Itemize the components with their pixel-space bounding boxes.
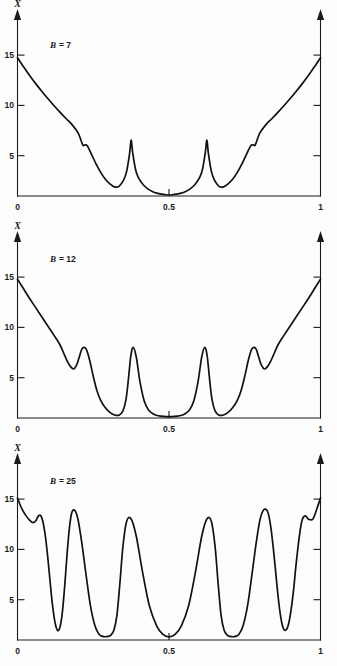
- x-tick-label-1: 1: [318, 202, 323, 212]
- series-annotation-value: = 25: [59, 476, 76, 486]
- y-tick-label-5: 5: [9, 151, 14, 161]
- series-annotation-value: = 7: [59, 40, 71, 50]
- panel-b-25: X 5 10 15 0 0.5 1 B = 25: [0, 444, 337, 666]
- panel-b-12: X 5 10 15 0 0.5 1 B = 12: [0, 222, 337, 444]
- curve-b-7: [18, 58, 321, 195]
- panel-b-12-svg: X 5 10 15 0 0.5 1 B = 12: [0, 222, 337, 444]
- y-tick-label-15: 15: [5, 272, 15, 282]
- curve-b-25: [18, 498, 321, 637]
- y-axis-right-arrow-icon: [317, 453, 324, 464]
- x-tick-label-0: 0: [15, 202, 20, 212]
- y-tick-label-5: 5: [9, 595, 14, 605]
- y-axis-title: X: [13, 0, 21, 9]
- x-tick-label-half: 0.5: [163, 202, 175, 212]
- y-tick-label-10: 10: [5, 100, 15, 110]
- figure-three-panel-line-plots: X 5 10 15 0 0.5 1 B = 7: [0, 0, 337, 666]
- x-tick-label-0: 0: [15, 646, 20, 656]
- x-tick-label-1: 1: [318, 424, 323, 434]
- panel-b-7-svg: X 5 10 15 0 0.5 1 B = 7: [0, 0, 337, 222]
- y-tick-label-10: 10: [5, 544, 15, 554]
- y-tick-label-15: 15: [5, 50, 15, 60]
- series-annotation-symbol: B: [49, 254, 56, 264]
- x-tick-label-0: 0: [15, 424, 20, 434]
- y-axis-right-arrow-icon: [317, 9, 324, 20]
- y-axis-right-arrow-icon: [317, 231, 324, 242]
- y-tick-label-15: 15: [5, 494, 15, 504]
- x-tick-label-half: 0.5: [163, 424, 175, 434]
- panel-b-25-svg: X 5 10 15 0 0.5 1 B = 25: [0, 444, 337, 666]
- x-tick-label-half: 0.5: [163, 646, 175, 656]
- panel-b-7-axes: [14, 9, 324, 196]
- series-annotation-symbol: B: [49, 476, 56, 486]
- y-axis-left-arrow-icon: [14, 453, 21, 464]
- series-annotation-symbol: B: [49, 40, 56, 50]
- y-tick-label-10: 10: [5, 322, 15, 332]
- x-tick-label-1: 1: [318, 646, 323, 656]
- y-axis-title: X: [13, 222, 21, 231]
- y-axis-title: X: [13, 444, 21, 453]
- series-annotation-value: = 12: [59, 254, 76, 264]
- y-axis-left-arrow-icon: [14, 231, 21, 242]
- y-axis-left-arrow-icon: [14, 9, 21, 20]
- curve-b-12: [18, 279, 321, 417]
- panel-b-7: X 5 10 15 0 0.5 1 B = 7: [0, 0, 337, 222]
- y-tick-label-5: 5: [9, 373, 14, 383]
